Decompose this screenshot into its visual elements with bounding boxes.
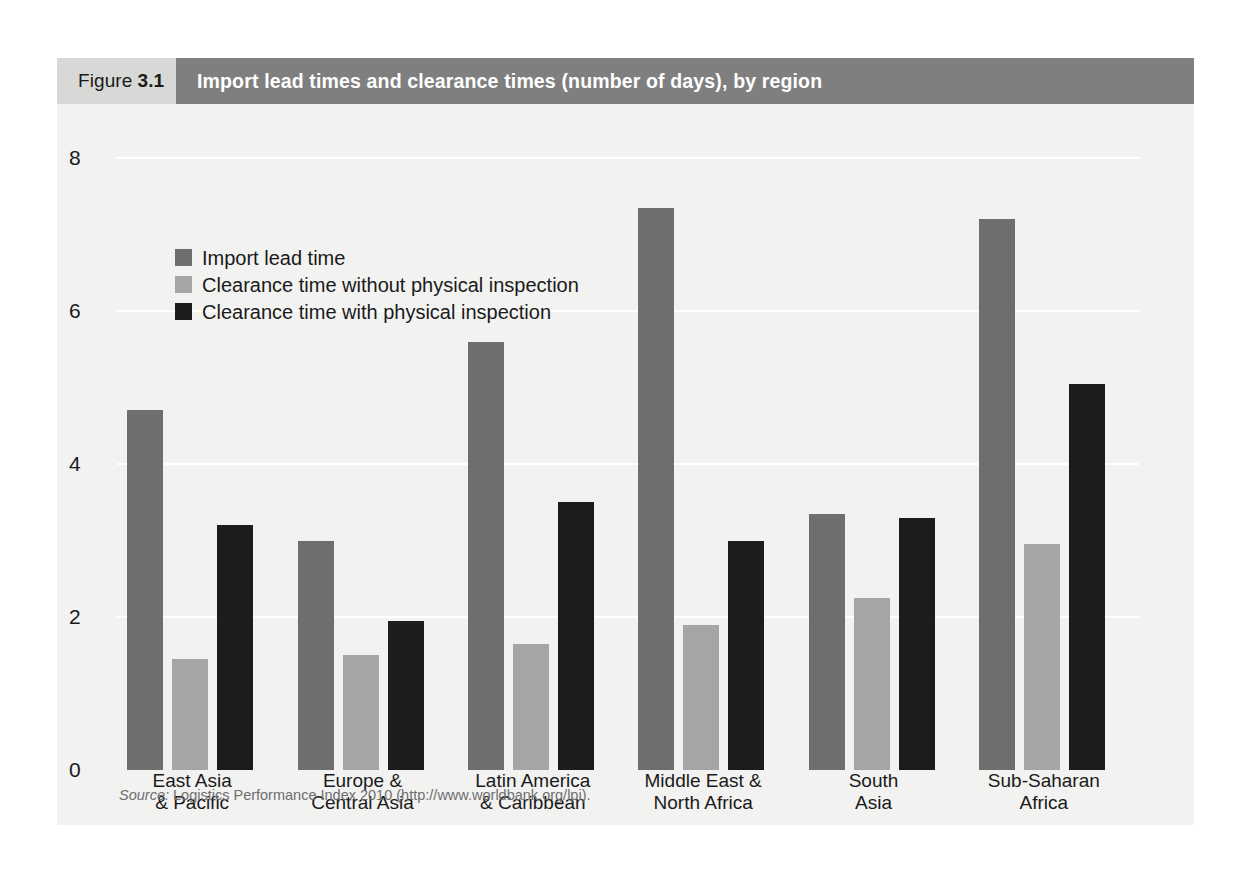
bar xyxy=(388,621,424,770)
figure-number: 3.1 xyxy=(137,70,164,92)
bar xyxy=(728,541,764,771)
bar xyxy=(809,514,845,770)
bar xyxy=(217,525,253,770)
figure-header: Figure 3.1 Import lead times and clearan… xyxy=(57,58,1194,104)
legend-swatch-icon xyxy=(175,303,192,320)
bar xyxy=(343,655,379,770)
bar xyxy=(127,410,163,770)
figure-number-box: Figure 3.1 xyxy=(57,58,176,104)
bar xyxy=(638,208,674,770)
bar-group xyxy=(638,158,764,770)
legend-item: Clearance time with physical inspection xyxy=(175,298,579,325)
y-axis-tick-label: 6 xyxy=(69,300,113,321)
bar xyxy=(558,502,594,770)
bars-group: East Asia & PacificEurope & Central Asia… xyxy=(117,104,1139,825)
source-text: Logistics Performance Index 2010 (http:/… xyxy=(169,787,591,803)
source-label: Source: xyxy=(119,787,169,803)
legend-item: Clearance time without physical inspecti… xyxy=(175,271,579,298)
legend-label: Clearance time without physical inspecti… xyxy=(202,275,579,295)
figure-label: Figure xyxy=(78,70,132,92)
bar xyxy=(513,644,549,770)
source-note: Source: Logistics Performance Index 2010… xyxy=(119,787,591,803)
bar-group xyxy=(809,158,935,770)
bar xyxy=(683,625,719,770)
bar xyxy=(468,342,504,770)
x-axis-category-label: Middle East & North Africa xyxy=(618,770,788,815)
legend-item: Import lead time xyxy=(175,244,579,271)
legend-swatch-icon xyxy=(175,249,192,266)
bar xyxy=(899,518,935,770)
legend-label: Import lead time xyxy=(202,248,345,268)
legend-label: Clearance time with physical inspection xyxy=(202,302,551,322)
y-axis-tick-label: 4 xyxy=(69,453,113,474)
bar xyxy=(854,598,890,770)
bar xyxy=(172,659,208,770)
chart-legend: Import lead timeClearance time without p… xyxy=(175,244,579,325)
chart-plot-area: 02468 East Asia & PacificEurope & Centra… xyxy=(57,104,1194,825)
figure-title: Import lead times and clearance times (n… xyxy=(176,58,1194,104)
bar xyxy=(1024,544,1060,770)
figure-panel: Figure 3.1 Import lead times and clearan… xyxy=(57,58,1194,825)
bar xyxy=(298,541,334,771)
y-axis-tick-label: 2 xyxy=(69,606,113,627)
y-axis-tick-label: 8 xyxy=(69,147,113,168)
bar xyxy=(1069,384,1105,770)
x-axis-category-label: South Asia xyxy=(788,770,958,815)
bar xyxy=(979,219,1015,770)
legend-swatch-icon xyxy=(175,276,192,293)
bar-group xyxy=(979,158,1105,770)
x-axis-category-label: Sub-Saharan Africa xyxy=(959,770,1129,815)
